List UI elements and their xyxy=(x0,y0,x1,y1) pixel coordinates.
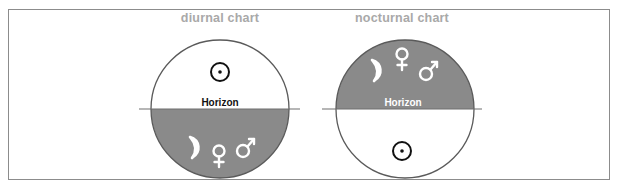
nocturnal-chart-title: nocturnal chart xyxy=(355,11,450,25)
diurnal-chart-title: diurnal chart xyxy=(181,11,260,25)
below-horizon-region xyxy=(150,109,290,179)
sect-diagram: diurnal chart Horizon nocturna xyxy=(0,0,620,186)
nocturnal-chart: nocturnal chart Horizon xyxy=(322,11,482,178)
diurnal-chart: diurnal chart Horizon xyxy=(139,11,300,179)
horizon-label: Horizon xyxy=(384,97,421,108)
horizon-label: Horizon xyxy=(201,97,238,108)
